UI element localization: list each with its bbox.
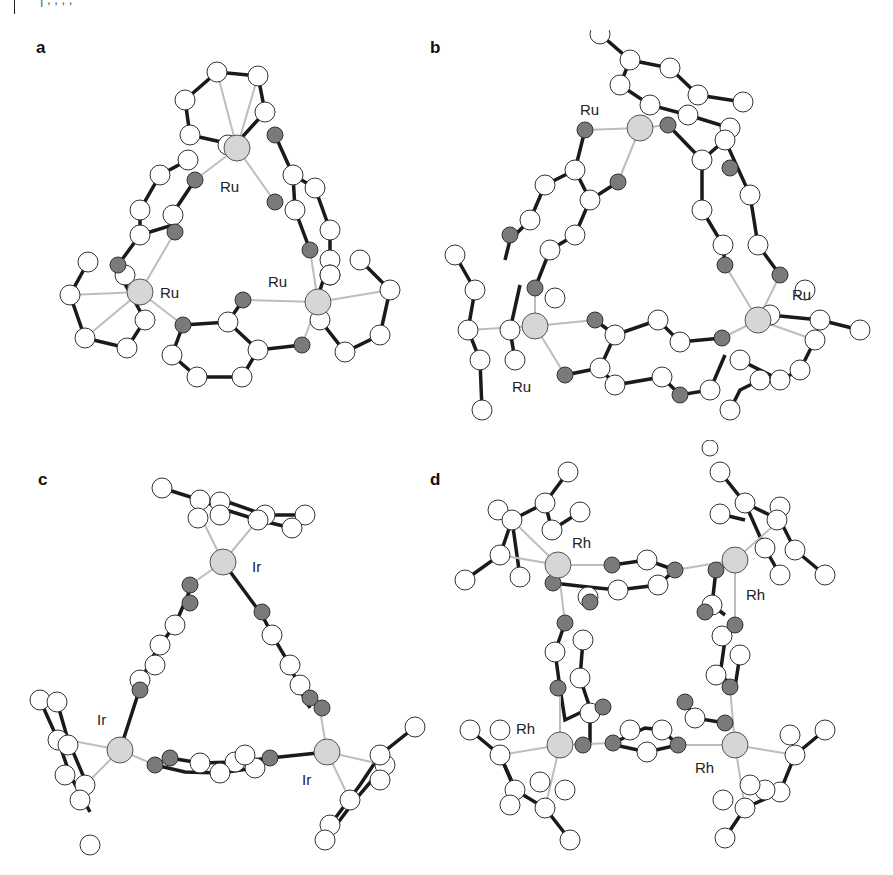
margin-rule [14, 0, 15, 14]
metal-label: Ru [580, 101, 599, 118]
molecular-structure-b: Ru Ru Ru [440, 30, 893, 450]
molecular-structure-a: Ru Ru Ru [0, 30, 440, 430]
metal-label: Ru [160, 284, 179, 301]
panel-a: a [0, 30, 440, 430]
molecular-structure-d: Rh Rh Rh Rh [440, 440, 893, 875]
panel-c: c [0, 440, 440, 875]
metal-label: Rh [746, 586, 765, 603]
metal-label: Ir [252, 558, 261, 575]
metal-label: Rh [516, 720, 535, 737]
panel-b: b [440, 30, 893, 450]
page-header-strip: | , , , , [0, 0, 893, 14]
molecular-structure-c: Ir Ir Ir [0, 440, 440, 875]
metal-label: Ru [268, 273, 287, 290]
clipped-caption-text: | , , , , [40, 0, 72, 7]
metal-label: Ru [220, 178, 239, 195]
panel-label-c: c [38, 470, 47, 490]
panel-label-b: b [430, 38, 440, 58]
panel-d: d [440, 440, 893, 875]
metal-label: Ir [97, 711, 106, 728]
metal-label: Ru [792, 286, 811, 303]
metal-label: Ru [512, 378, 531, 395]
metal-label: Rh [572, 534, 591, 551]
metal-label: Rh [695, 759, 714, 776]
metal-label: Ir [302, 771, 311, 788]
panel-label-a: a [36, 38, 45, 58]
panel-label-d: d [430, 470, 440, 490]
